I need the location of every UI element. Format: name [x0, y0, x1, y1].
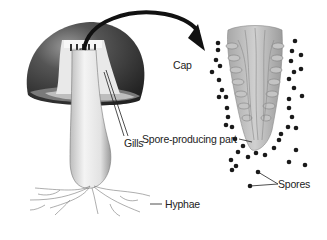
- label-spore-producing-part: Spore-producing part: [142, 134, 237, 145]
- label-hyphae: Hyphae: [165, 199, 200, 210]
- label-cap: Cap: [173, 60, 192, 71]
- spore-producing-part: [226, 26, 284, 151]
- label-gills: Gills: [124, 138, 143, 149]
- label-spores: Spores: [278, 179, 310, 190]
- arrow-head-icon: [188, 24, 205, 51]
- hyphae-roots: [30, 186, 150, 216]
